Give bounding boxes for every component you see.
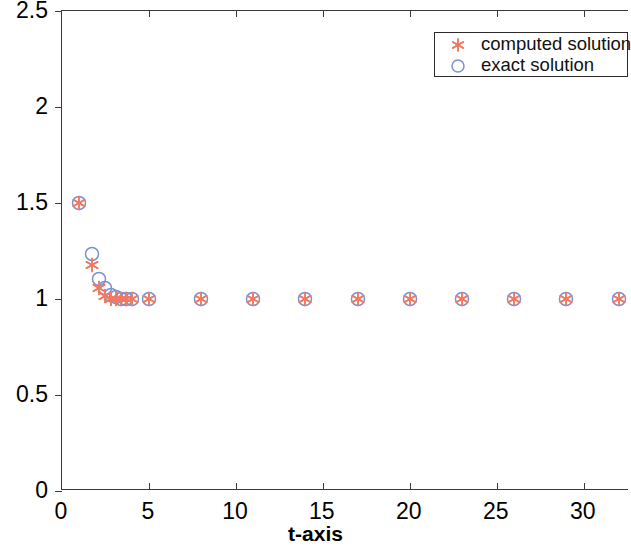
x-axis-tick-top (323, 11, 324, 17)
x-axis-title: t-axis (0, 522, 631, 546)
data-point-computed-solution (113, 291, 130, 308)
data-point-exact-solution (118, 291, 135, 308)
data-point-computed-solution (454, 291, 471, 308)
data-point-exact-solution (297, 291, 314, 308)
data-point-exact-solution (401, 291, 418, 308)
data-point-exact-solution (102, 286, 119, 303)
x-axis-tick (323, 483, 324, 489)
y-axis-tick (55, 491, 62, 492)
x-axis-tick-label: 10 (222, 500, 248, 523)
x-axis-tick-top (584, 11, 585, 17)
data-point-exact-solution (193, 291, 210, 308)
y-axis-title: x-axis (0, 204, 4, 264)
plot-box (61, 10, 628, 490)
y-axis-tick-label: 2 (0, 95, 48, 118)
y-axis-tick (55, 11, 62, 12)
circle-marker-icon (435, 58, 481, 74)
legend-entry-exact-solution: exact solution (435, 55, 627, 76)
data-point-computed-solution (245, 291, 262, 308)
figure: 00.511.522.5 051015202530 x-axis t-axis … (0, 0, 631, 551)
data-point-computed-solution (140, 291, 157, 308)
x-axis-tick (149, 483, 150, 489)
data-point-exact-solution (90, 270, 107, 287)
x-axis-tick-top (497, 11, 498, 17)
data-point-computed-solution (90, 280, 107, 297)
y-axis-tick (55, 395, 62, 396)
y-axis-tick (55, 299, 62, 300)
data-point-computed-solution (401, 291, 418, 308)
data-point-computed-solution (193, 291, 210, 308)
x-axis-tick-label: 20 (396, 500, 422, 523)
y-axis-tick (55, 107, 62, 108)
x-axis-tick-top (149, 11, 150, 17)
data-point-computed-solution (83, 257, 100, 274)
y-axis-tick-label: 1 (0, 287, 48, 310)
data-point-computed-solution (96, 288, 113, 305)
y-axis-tick (55, 203, 62, 204)
data-point-exact-solution (96, 280, 113, 297)
x-axis-tick (410, 483, 411, 489)
data-point-computed-solution (349, 291, 366, 308)
x-axis-tick (584, 483, 585, 489)
plot-area (62, 11, 628, 489)
y-axis-tick-label: 0.5 (0, 383, 48, 406)
x-axis-tick (236, 483, 237, 489)
x-axis-tick-label: 25 (483, 500, 509, 523)
data-point-exact-solution (107, 289, 124, 306)
asterisk-marker-icon (435, 37, 481, 53)
data-point-exact-solution (349, 291, 366, 308)
data-point-computed-solution (506, 291, 523, 308)
data-point-exact-solution (123, 291, 140, 308)
data-point-computed-solution (123, 291, 140, 308)
y-axis-tick-label: 0 (0, 479, 48, 502)
x-axis-tick-label: 15 (309, 500, 335, 523)
legend: computed solution exact solution (434, 32, 628, 77)
y-axis-tick-label: 1.5 (0, 191, 48, 214)
legend-label: exact solution (481, 56, 594, 75)
data-point-exact-solution (83, 245, 100, 262)
data-point-computed-solution (118, 291, 135, 308)
data-point-exact-solution (610, 291, 627, 308)
data-point-computed-solution (297, 291, 314, 308)
x-axis-tick (497, 483, 498, 489)
y-axis-tick-label: 2.5 (0, 0, 48, 22)
data-point-computed-solution (610, 291, 627, 308)
data-point-exact-solution (113, 291, 130, 308)
x-axis-tick-label: 0 (55, 500, 68, 523)
data-point-exact-solution (454, 291, 471, 308)
data-point-exact-solution (558, 291, 575, 308)
data-point-exact-solution (71, 195, 88, 212)
data-point-exact-solution (140, 291, 157, 308)
data-point-computed-solution (107, 291, 124, 308)
data-point-computed-solution (558, 291, 575, 308)
legend-label: computed solution (481, 35, 631, 54)
data-point-computed-solution (102, 290, 119, 307)
data-point-exact-solution (506, 291, 523, 308)
x-axis-tick-top (410, 11, 411, 17)
x-axis-tick-label: 5 (142, 500, 155, 523)
x-axis-tick-label: 30 (570, 500, 596, 523)
legend-entry-computed-solution: computed solution (435, 34, 627, 55)
data-point-computed-solution (71, 195, 88, 212)
data-point-exact-solution (245, 291, 262, 308)
x-axis-tick-top (236, 11, 237, 17)
